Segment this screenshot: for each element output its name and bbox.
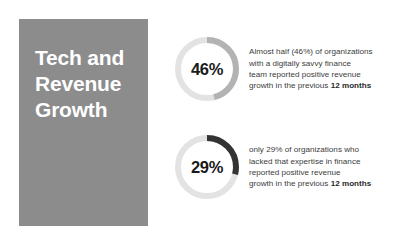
page-title: Tech and Revenue Growth [35,45,134,123]
stat-description-line: team reported positive revenue [249,69,394,80]
stat-row: 46% Almost half (46%) of organizations w… [172,34,394,104]
stat-description: only 29% of organizations who lacked tha… [249,144,394,189]
donut-percent-label: 46% [172,34,242,104]
stat-description-highlight: 12 months [331,81,372,90]
stat-description-line-text: growth in the previous [249,179,331,188]
stat-description-line: only 29% of organizations who [249,144,394,155]
stat-description-line: with a digitally savvy finance [249,58,394,69]
stat-description-line: growth in the previous 12 months [249,80,394,91]
stat-description-line: lacked that expertise in finance [249,156,394,167]
donut-percent-label: 29% [172,132,242,202]
stat-description-line: reported positive revenue [249,167,394,178]
donut-chart-29: 29% [172,132,242,202]
stat-row: 29% only 29% of organizations who lacked… [172,132,394,202]
title-block: Tech and Revenue Growth [19,19,148,226]
stat-description-highlight: 12 months [331,179,372,188]
infographic-page: Tech and Revenue Growth 46% Almost half … [0,0,394,237]
donut-chart-46: 46% [172,34,242,104]
stat-description-line-text: growth in the previous [249,81,331,90]
stat-description-line: growth in the previous 12 months [249,178,394,189]
stat-description: Almost half (46%) of organizations with … [249,46,394,91]
stat-description-line: Almost half (46%) of organizations [249,46,394,57]
